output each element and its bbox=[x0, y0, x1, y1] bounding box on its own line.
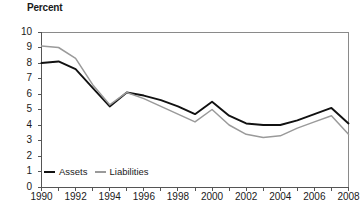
legend-item-liabilities: Liabilities bbox=[95, 167, 149, 177]
legend-swatch-assets-icon bbox=[44, 171, 55, 173]
legend-label-assets: Assets bbox=[59, 167, 88, 177]
series-line-liabilities bbox=[42, 46, 349, 137]
data-series bbox=[42, 46, 349, 137]
legend-label-liabilities: Liabilities bbox=[110, 167, 149, 177]
chart-legend: Assets Liabilities bbox=[44, 167, 149, 177]
legend-item-assets: Assets bbox=[44, 167, 88, 177]
legend-swatch-liabilities-icon bbox=[95, 171, 106, 173]
series-line-assets bbox=[42, 61, 349, 125]
